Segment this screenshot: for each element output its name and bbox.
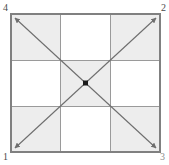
square-grid-diagram [0,0,169,165]
corner-label-bottom-left: 1 [3,152,8,162]
corner-label-top-left: 4 [3,3,8,13]
cell-bottom-center [61,106,111,152]
corner-label-bottom-right: 3 [160,152,165,162]
cell-middle-left [11,60,61,106]
center-point-marker [83,81,88,86]
cell-top-center [61,14,111,60]
cell-middle-right [110,60,160,106]
diagram-canvas: 4 2 1 3 [0,0,169,165]
corner-label-top-right: 2 [161,3,166,13]
